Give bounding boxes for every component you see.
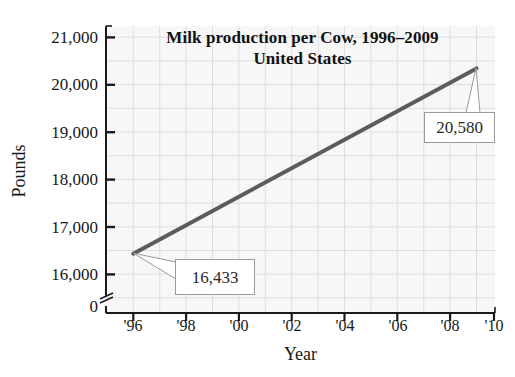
ytick-label-20000: 20,000 — [51, 76, 98, 93]
xtick-label-00: '00 — [230, 318, 249, 334]
xtick-label-06: '06 — [389, 318, 408, 334]
ytick-label-zero: 0 — [90, 298, 99, 315]
xtick-label-08: '08 — [441, 318, 460, 334]
y-axis-title: Pounds — [10, 116, 28, 226]
xtick-label-02: '02 — [283, 318, 302, 334]
xtick-label-10: '10 — [485, 318, 504, 334]
ytick-label-17000: 17,000 — [51, 219, 98, 236]
xtick-label-04: '04 — [336, 318, 355, 334]
ytick-label-21000: 21,000 — [51, 29, 98, 46]
ytick-label-16000: 16,000 — [51, 266, 98, 283]
chart-title-line1: Milk production per Cow, 1996–2009 — [166, 28, 438, 47]
xtick-label-96: '96 — [124, 318, 143, 334]
ytick-label-19000: 19,000 — [51, 124, 98, 141]
data-label-16433: 16,433 — [175, 259, 255, 295]
data-label-20580: 20,580 — [424, 112, 495, 143]
ytick-label-18000: 18,000 — [51, 171, 98, 188]
x-axis-title: Year — [106, 345, 495, 363]
chart-title: Milk production per Cow, 1996–2009 Unite… — [110, 28, 495, 69]
chart-title-line2: United States — [110, 49, 495, 70]
xtick-label-98: '98 — [177, 318, 196, 334]
chart-figure: Milk production per Cow, 1996–2009 Unite… — [0, 0, 515, 377]
